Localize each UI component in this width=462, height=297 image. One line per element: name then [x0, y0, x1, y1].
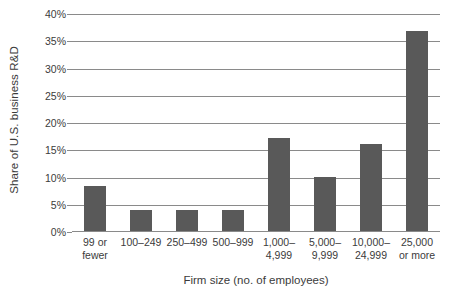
x-axis-line	[72, 231, 440, 233]
x-tick-label: 99 orfewer	[82, 236, 108, 262]
bar[interactable]	[222, 210, 244, 232]
plot-area: 0%5%10%15%20%25%30%35%40%	[72, 14, 440, 232]
bar[interactable]	[84, 186, 106, 232]
bar[interactable]	[268, 138, 290, 232]
bar-slot	[164, 14, 210, 232]
bars-layer	[72, 14, 440, 232]
y-tick-label: 10%	[45, 172, 66, 184]
x-tick-label: 5,000–9,999	[309, 236, 341, 262]
bar-slot	[348, 14, 394, 232]
y-tick-label: 40%	[45, 8, 66, 20]
x-tick-label: 250–499	[167, 236, 208, 249]
x-tick-label: 500–999	[213, 236, 254, 249]
y-tick-label: 30%	[45, 63, 66, 75]
x-axis-title: Firm size (no. of employees)	[72, 274, 440, 286]
bar[interactable]	[314, 177, 336, 232]
y-tick-label: 0%	[51, 226, 66, 238]
y-axis-title-text: Share of U.S. business R&D	[8, 46, 20, 194]
y-tick-label: 20%	[45, 117, 66, 129]
bar[interactable]	[176, 210, 198, 232]
x-axis-tick-labels: 99 orfewer100–249250–499500–9991,000–4,9…	[72, 236, 440, 270]
bar[interactable]	[406, 31, 428, 232]
y-tick-label: 15%	[45, 144, 66, 156]
x-tick-label: 100–249	[121, 236, 162, 249]
y-axis-title: Share of U.S. business R&D	[0, 0, 28, 240]
x-tick-label: 1,000–4,999	[263, 236, 295, 262]
bar-slot	[118, 14, 164, 232]
bar-slot	[256, 14, 302, 232]
y-tick-label: 35%	[45, 35, 66, 47]
bar[interactable]	[130, 210, 152, 232]
y-tick-label: 5%	[51, 199, 66, 211]
bar[interactable]	[360, 144, 382, 232]
x-tick-label: 10,000–24,999	[352, 236, 390, 262]
x-tick-label: 25,000or more	[399, 236, 435, 262]
bar-slot	[72, 14, 118, 232]
bar-slot	[210, 14, 256, 232]
y-tick-label: 25%	[45, 90, 66, 102]
bar-slot	[302, 14, 348, 232]
gridline	[72, 232, 440, 233]
y-tick-mark	[67, 232, 72, 233]
bar-chart-figure: Share of U.S. business R&D 0%5%10%15%20%…	[0, 0, 462, 297]
bar-slot	[394, 14, 440, 232]
